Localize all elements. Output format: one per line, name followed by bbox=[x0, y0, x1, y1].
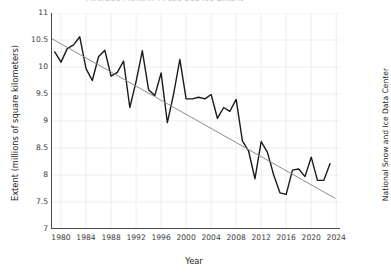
y-tick-label: 11 bbox=[22, 9, 48, 17]
x-axis-tick-labels: 1980198419881992199620002004200820122016… bbox=[51, 234, 340, 246]
x-tick-label: 1988 bbox=[101, 234, 120, 242]
data-series-layer bbox=[52, 37, 335, 198]
y-axis-tick-labels: 77.588.599.51010.511 bbox=[20, 13, 48, 229]
source-credit-label: National Snow and Ice Data Center bbox=[381, 45, 390, 225]
chart-title: Average Monthly Arctic Sea Ice Extent bbox=[0, 0, 330, 1]
chart-canvas bbox=[51, 13, 340, 229]
x-tick-label: 2016 bbox=[277, 234, 296, 242]
y-tick-label: 9 bbox=[22, 117, 48, 125]
y-tick-label: 7 bbox=[22, 225, 48, 233]
x-tick-label: 2000 bbox=[176, 234, 195, 242]
x-tick-label: 1984 bbox=[76, 234, 95, 242]
x-tick-label: 2024 bbox=[327, 234, 346, 242]
y-tick-label: 10.5 bbox=[22, 36, 48, 44]
x-tick-label: 1996 bbox=[151, 234, 170, 242]
y-tick-label: 8 bbox=[22, 171, 48, 179]
x-tick-label: 2012 bbox=[252, 234, 271, 242]
y-tick-label: 10 bbox=[22, 63, 48, 71]
grid-lines bbox=[51, 13, 340, 229]
series-line-trend bbox=[52, 39, 335, 198]
x-axis-label: Year bbox=[48, 256, 340, 266]
y-tick-label: 9.5 bbox=[22, 90, 48, 98]
x-tick-label: 2008 bbox=[226, 234, 245, 242]
y-tick-label: 7.5 bbox=[22, 198, 48, 206]
y-axis-label: Extent (millions of square kilometers) bbox=[10, 13, 20, 233]
plot-area bbox=[51, 13, 340, 229]
series-line-sea-ice-extent bbox=[55, 37, 330, 195]
x-tick-label: 1980 bbox=[51, 234, 70, 242]
x-tick-label: 1992 bbox=[126, 234, 145, 242]
x-tick-label: 2004 bbox=[201, 234, 220, 242]
chart-figure: Average Monthly Arctic Sea Ice Extent Ex… bbox=[0, 0, 391, 276]
y-tick-label: 8.5 bbox=[22, 144, 48, 152]
x-tick-label: 2020 bbox=[302, 234, 321, 242]
